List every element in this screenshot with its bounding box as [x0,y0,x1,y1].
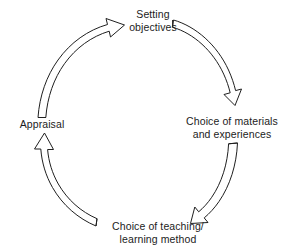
arrow-materials-to-teaching [191,143,238,224]
arrow-teaching-to-appraisal [35,133,98,226]
node-label-choice-materials: Choice of materials and experiences [176,115,288,141]
node-label-appraisal: Appraisal [6,118,78,131]
arrow-appraisal-to-objectives [38,19,125,118]
node-label-setting-objectives: Setting objectives [113,8,193,34]
cycle-diagram: Setting objectives Choice of materials a… [0,0,291,252]
node-label-choice-teaching: Choice of teaching/ learning method [100,220,216,246]
